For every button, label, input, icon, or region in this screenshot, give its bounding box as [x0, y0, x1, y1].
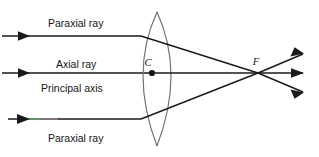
arrow-head-icon — [18, 68, 30, 78]
optics-ray-diagram: Paraxial ray Axial ray Principal axis Pa… — [0, 0, 319, 157]
refracted-ray-top — [141, 36, 304, 99]
refracted-ray-top-converging — [141, 36, 258, 73]
label-axial-ray: Axial ray — [56, 58, 97, 70]
paraxial-ray-incoming-top — [2, 31, 141, 41]
refracted-ray-bottom — [141, 47, 304, 119]
label-focal-point: F — [252, 56, 260, 67]
converging-lens — [143, 12, 171, 146]
lens-right-surface-arc — [157, 12, 171, 146]
ray-diagram-figure: Paraxial ray Axial ray Principal axis Pa… — [0, 0, 319, 157]
refracted-ray-axis — [153, 68, 304, 78]
paraxial-ray-incoming-bottom — [8, 114, 141, 124]
arrow-head-icon — [291, 68, 304, 78]
arrow-head-icon — [17, 114, 30, 124]
refracted-ray-bottom-converging — [141, 73, 258, 119]
label-paraxial-ray-bottom: Paraxial ray — [48, 132, 104, 144]
label-principal-axis: Principal axis — [41, 82, 103, 94]
lens-left-surface-arc — [143, 12, 157, 146]
label-lens-center: C — [144, 57, 152, 68]
arrow-head-icon — [18, 31, 30, 41]
label-paraxial-ray-top: Paraxial ray — [48, 17, 104, 29]
